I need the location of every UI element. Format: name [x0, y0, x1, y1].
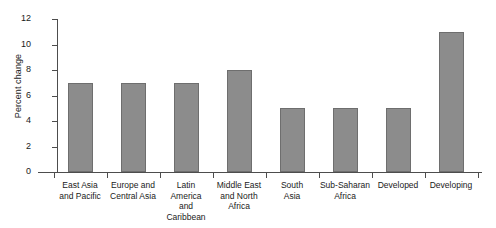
x-axis-category-label: Developed — [372, 180, 425, 191]
y-axis-tick-mark — [52, 147, 57, 148]
bar-chart: Percent change 024681012 East Asiaand Pa… — [0, 0, 496, 228]
x-axis-category-label: Europe andCentral Asia — [107, 180, 160, 201]
x-axis-category-label-line: Central Asia — [107, 191, 160, 202]
bar — [333, 108, 358, 172]
y-axis-tick-mark — [52, 19, 57, 20]
x-axis-category-label-line: Latin — [160, 180, 213, 191]
x-axis-category-label-line: and — [160, 201, 213, 212]
bar — [68, 83, 93, 172]
y-axis-tick-mark — [52, 70, 57, 71]
y-axis-tick-label: 0 — [11, 166, 31, 177]
x-axis-category-label: SouthAsia — [266, 180, 319, 201]
x-axis-category-label-line: Caribbean — [160, 212, 213, 223]
bar — [174, 83, 199, 172]
x-axis-tick-mark — [160, 173, 161, 178]
bar — [227, 70, 252, 172]
x-axis-tick-mark — [478, 173, 479, 178]
y-axis-line — [57, 19, 58, 173]
x-axis-tick-mark — [266, 173, 267, 178]
y-axis-tick-mark — [52, 96, 57, 97]
x-axis-category-label-line: East Asia — [54, 180, 107, 191]
y-axis-tick-label: 10 — [11, 39, 31, 50]
bar — [386, 108, 411, 172]
x-axis-category-label: East Asiaand Pacific — [54, 180, 107, 201]
x-axis-category-label-line: Developed — [372, 180, 425, 191]
x-axis-tick-mark — [372, 173, 373, 178]
y-axis-tick-mark — [52, 45, 57, 46]
y-axis-tick-label: 4 — [11, 115, 31, 126]
x-axis-category-label-line: and Pacific — [54, 191, 107, 202]
x-axis-category-label-line: Middle East — [213, 180, 266, 191]
bar — [121, 83, 146, 172]
x-axis-category-label-line: Sub-Saharan — [319, 180, 372, 191]
x-axis-category-label-line: Europe and — [107, 180, 160, 191]
x-axis-category-label-line: and North — [213, 191, 266, 202]
x-axis-category-label-line: Africa — [319, 191, 372, 202]
x-axis-category-label-line: Developing — [425, 180, 478, 191]
x-axis-category-label-line: America — [160, 191, 213, 202]
x-axis-tick-mark — [213, 173, 214, 178]
x-axis-category-label: Middle Eastand NorthAfrica — [213, 180, 266, 212]
bar — [439, 32, 464, 172]
y-axis-tick-label: 2 — [11, 141, 31, 152]
x-axis-tick-mark — [425, 173, 426, 178]
x-axis-category-label-line: Africa — [213, 201, 266, 212]
y-axis-tick-label: 6 — [11, 90, 31, 101]
x-axis-line — [38, 172, 482, 173]
y-axis-tick-label: 12 — [11, 13, 31, 24]
x-axis-category-label-line: South — [266, 180, 319, 191]
x-axis-category-label-line: Asia — [266, 191, 319, 202]
x-axis-category-label: Sub-SaharanAfrica — [319, 180, 372, 201]
x-axis-tick-mark — [107, 173, 108, 178]
x-axis-tick-mark — [54, 173, 55, 178]
y-axis-tick-label: 8 — [11, 64, 31, 75]
x-axis-category-label: Developing — [425, 180, 478, 191]
bar — [280, 108, 305, 172]
x-axis-category-label: LatinAmericaandCaribbean — [160, 180, 213, 222]
x-axis-tick-mark — [319, 173, 320, 178]
y-axis-tick-mark — [52, 121, 57, 122]
